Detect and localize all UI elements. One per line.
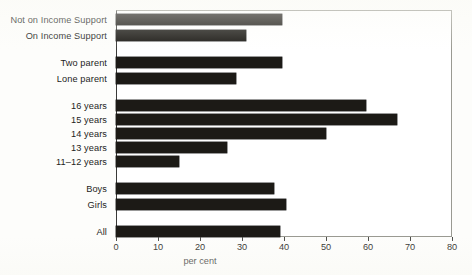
bar-chart: Not on Income Support On Income Support … (0, 0, 472, 275)
x-tick-mark (326, 237, 327, 241)
category-label: Boys (86, 184, 107, 195)
bar-boys (116, 183, 274, 194)
category-label: Not on Income Support (10, 15, 107, 26)
category-label: Girls (88, 200, 107, 211)
category-label: On Income Support (26, 31, 107, 42)
x-tick-label: 30 (237, 242, 247, 253)
bar-15-years (116, 114, 397, 125)
x-tick-label: 80 (447, 242, 457, 253)
x-tick-mark (284, 237, 285, 241)
x-tick-mark (452, 237, 453, 241)
bar-lone-parent (116, 73, 236, 84)
x-tick-mark (116, 237, 117, 241)
x-tick-mark (368, 237, 369, 241)
x-tick-label: 60 (363, 242, 373, 253)
x-tick-label: 20 (195, 242, 205, 253)
bar-16-years (116, 100, 366, 111)
bar-all (116, 226, 280, 237)
bar-girls (116, 199, 286, 210)
x-axis-title: per cent (183, 256, 216, 267)
bars-container (116, 10, 452, 237)
category-label: All (96, 227, 107, 238)
bar-two-parent (116, 57, 282, 68)
x-tick-label: 70 (405, 242, 415, 253)
x-tick-label: 50 (321, 242, 331, 253)
x-tick-label: 0 (113, 242, 118, 253)
x-tick-mark (242, 237, 243, 241)
category-label: Two parent (61, 58, 107, 69)
bar-11-12-years (116, 156, 179, 167)
category-label: 14 years (71, 129, 107, 140)
category-label: 11–12 years (56, 157, 107, 168)
bar-on-income-support (116, 30, 246, 41)
x-axis: 01020304050607080 per cent (116, 237, 452, 275)
x-tick-mark (200, 237, 201, 241)
x-tick-mark (410, 237, 411, 241)
x-tick-label: 10 (153, 242, 163, 253)
category-label: 16 years (71, 101, 107, 112)
category-label: Lone parent (57, 74, 107, 85)
category-label: 15 years (71, 115, 107, 126)
bar-13-years (116, 142, 227, 153)
x-tick-label: 40 (279, 242, 289, 253)
x-tick-mark (158, 237, 159, 241)
category-label: 13 years (71, 143, 107, 154)
bar-not-on-income-support (116, 14, 282, 25)
category-axis-labels: Not on Income Support On Income Support … (0, 10, 112, 237)
bar-14-years (116, 128, 326, 139)
